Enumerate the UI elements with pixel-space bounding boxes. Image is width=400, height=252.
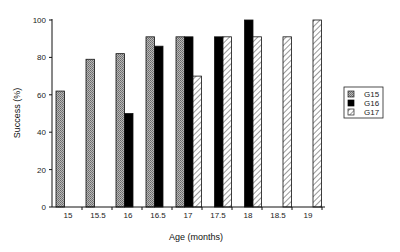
x-tick-label: 16.5 [150,211,166,220]
x-tick-label: 19 [304,211,313,220]
x-axis-title: Age (months) [169,232,223,242]
bar-g15-17 [176,37,185,207]
x-tick-label: 17 [184,211,193,220]
bar-g15-16.5 [146,37,155,207]
y-ticks: 020406080100 [33,16,52,212]
y-tick-label: 40 [37,128,46,137]
bar-g17-18.5 [283,37,292,207]
bar-g17-18 [253,37,262,207]
bar-g15-16 [116,54,125,207]
legend-swatch-g16 [348,100,354,106]
bar-g17-17.5 [223,37,232,207]
x-tick-label: 18 [244,211,253,220]
legend-label-g16: G16 [364,99,380,108]
y-tick-label: 60 [37,91,46,100]
x-tick-label: 15.5 [90,211,106,220]
bar-g16-18 [245,20,254,207]
y-tick-label: 100 [33,16,47,25]
bar-g15-15 [56,91,65,207]
y-tick-label: 20 [37,166,46,175]
bars-group [56,20,322,207]
bar-g16-16.5 [155,46,164,207]
bar-g17-19 [313,20,322,207]
x-tick-label: 16 [124,211,133,220]
bar-g15-15.5 [86,59,95,207]
x-tick-label: 17.5 [210,211,226,220]
legend-swatch-g15 [348,91,354,97]
legend-label-g17: G17 [364,108,380,117]
legend-label-g15: G15 [364,90,380,99]
y-tick-label: 0 [42,203,47,212]
bar-g16-16 [125,114,134,208]
x-tick-label: 18.5 [270,211,286,220]
bar-chart: 020406080100 1515.51616.51717.51818.519 … [0,0,400,252]
bar-g17-17 [193,76,202,207]
legend-swatch-g17 [348,109,354,115]
bar-g16-17.5 [215,37,224,207]
y-axis-title: Success (%) [12,88,22,139]
legend: G15 G16 G17 [344,87,383,118]
x-tick-label: 15 [64,211,73,220]
x-ticks: 1515.51616.51717.51818.519 [64,207,322,220]
bar-g16-17 [185,37,194,207]
y-tick-label: 80 [37,53,46,62]
